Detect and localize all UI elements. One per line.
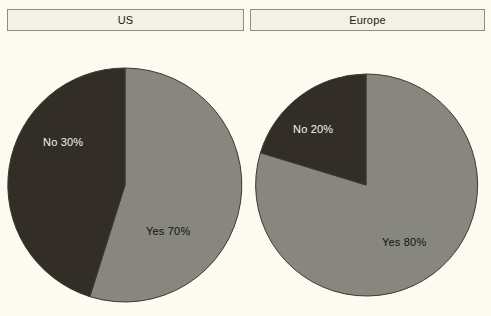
panel-title-us-label: US	[118, 14, 134, 26]
pie-chart-europe: No 20% Yes 80%	[254, 72, 480, 300]
panel-title-europe-label: Europe	[349, 14, 386, 26]
pie-label-europe-yes: Yes 80%	[382, 236, 426, 248]
pie-chart-europe-svg: No 20% Yes 80%	[254, 72, 480, 300]
pie-label-us-no: No 30%	[43, 136, 83, 148]
panel-title-europe: Europe	[250, 9, 485, 31]
pie-chart-us: No 30% Yes 70%	[8, 66, 244, 306]
chart-page: US No 30% Yes 70% Europe No 20% Yes 80%	[0, 0, 491, 316]
pie-label-europe-no: No 20%	[293, 123, 333, 135]
pie-chart-us-svg: No 30% Yes 70%	[8, 66, 244, 306]
panel-title-us: US	[7, 9, 244, 31]
pie-label-us-yes: Yes 70%	[146, 225, 190, 237]
